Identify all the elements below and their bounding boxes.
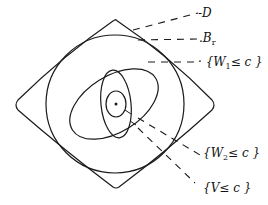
diagram-graphics <box>0 0 268 205</box>
leader-w2 <box>138 118 200 155</box>
label-v: {V≤ c } <box>203 182 251 194</box>
leader-d <box>133 13 198 30</box>
label-w1: · {W1≤ c } <box>198 56 263 73</box>
center-point <box>115 103 118 106</box>
label-d: -D <box>198 7 212 19</box>
level-set-diagram: -D .Br · {W1≤ c } {W2≤ c } {V≤ c } <box>0 0 268 205</box>
leader-v <box>138 128 195 183</box>
label-w2: {W2≤ c } <box>203 147 260 164</box>
leader-br <box>138 39 198 40</box>
region-w1-ellipse <box>58 54 171 153</box>
label-br: .Br <box>199 32 215 49</box>
